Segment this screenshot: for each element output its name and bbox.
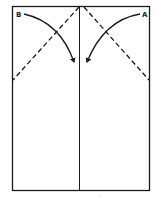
label-a: A (142, 11, 148, 19)
dashed-fold-right (84, 7, 149, 80)
folding-diagram: B A ' (0, 0, 157, 202)
arrow-a-icon (87, 14, 140, 62)
paper-outline (13, 7, 150, 191)
dashed-fold-left (13, 7, 79, 80)
label-b: B (16, 11, 21, 19)
footer-mark: ' (99, 194, 100, 200)
